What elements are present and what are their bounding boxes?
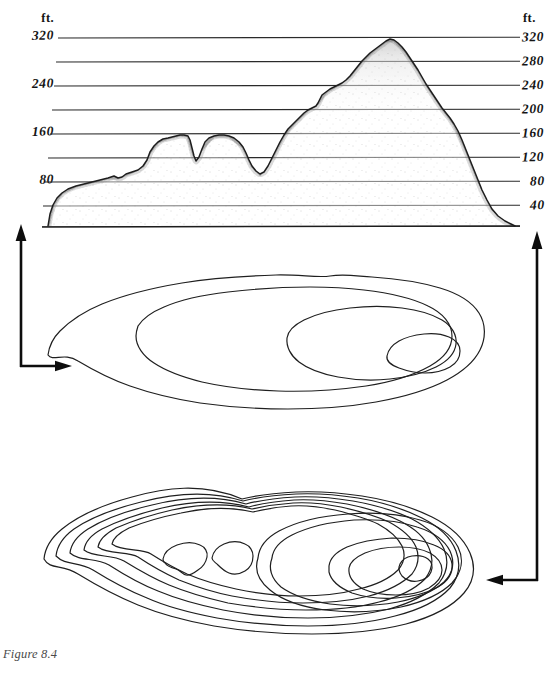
gridline-320 xyxy=(58,37,520,38)
figure-drawing xyxy=(0,0,559,679)
projection-arrow-left xyxy=(16,224,72,371)
figure-container: ft. 320 240 160 80 ft. 320 280 240 200 1… xyxy=(0,0,559,679)
terrain-profile-panel xyxy=(40,30,530,230)
contour-line-summit xyxy=(387,334,460,373)
gridline-240 xyxy=(54,85,520,86)
gridline-200 xyxy=(52,109,520,110)
arrow-right-left-head xyxy=(486,575,503,585)
contour-line-second xyxy=(136,287,452,391)
contour-detail-5 xyxy=(98,503,418,603)
contour-line-outer xyxy=(48,275,484,409)
contour-map-coarse xyxy=(48,275,484,409)
contour-detail-knoll-left xyxy=(163,543,207,575)
projection-arrow-right xyxy=(486,231,542,585)
contour-map-detailed xyxy=(44,488,473,634)
arrow-left-right-head xyxy=(55,361,72,371)
gridline-280 xyxy=(56,61,520,62)
contour-line-third xyxy=(287,307,456,381)
contour-detail-knoll-right xyxy=(212,542,253,574)
profile-baseline xyxy=(42,226,520,227)
figure-caption: Figure 8.4 xyxy=(3,647,57,662)
arrow-left-up-head xyxy=(16,224,27,241)
arrow-right-up-head xyxy=(532,231,543,249)
